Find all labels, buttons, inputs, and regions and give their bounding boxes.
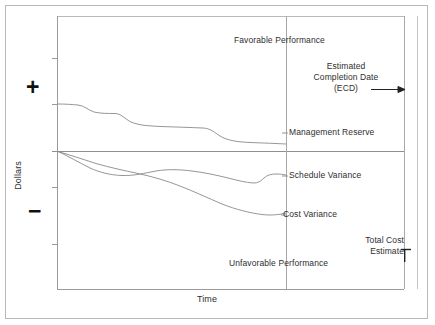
ecd-line-2: Completion Date: [300, 72, 392, 83]
x-axis-title: Time: [197, 294, 217, 305]
management-reserve-label: Management Reserve: [289, 127, 374, 138]
negative-sign-label: −: [28, 200, 41, 223]
ecd-annotation: Estimated Completion Date (ECD): [300, 61, 392, 94]
schedule-variance-label: Schedule Variance: [289, 170, 361, 181]
unfavorable-performance-label: Unfavorable Performance: [229, 258, 328, 269]
tce-line-1: Total Cost: [348, 235, 404, 246]
total-cost-estimate-annotation: Total Cost Estimate: [348, 235, 404, 257]
ecd-line-3: (ECD): [300, 83, 392, 94]
favorable-performance-label: Favorable Performance: [234, 35, 325, 46]
curve-management-reserve: [58, 104, 286, 144]
chart-canvas: [0, 0, 435, 325]
ecd-line-1: Estimated: [300, 61, 392, 72]
curve-schedule-variance: [58, 152, 286, 184]
cost-variance-label: Cost Variance: [283, 209, 337, 220]
positive-sign-label: +: [26, 76, 39, 99]
tce-line-2: Estimate: [348, 246, 404, 257]
chart-page: Favorable Performance Unfavorable Perfor…: [0, 0, 435, 325]
y-axis-title: Dollars: [13, 149, 24, 203]
